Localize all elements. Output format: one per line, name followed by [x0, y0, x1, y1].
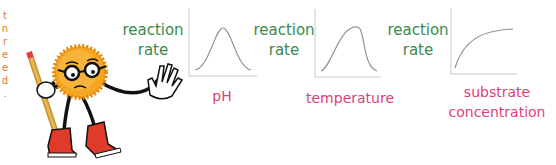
- xlabel-line: temperature: [300, 88, 400, 108]
- chart1-plot: [189, 8, 259, 78]
- chart2-xlabel: temperature: [300, 88, 400, 108]
- saturation-curve: [455, 29, 513, 68]
- chart2-plot: [315, 9, 385, 79]
- ylabel-line: reaction: [387, 20, 449, 40]
- glove-left-icon: [37, 82, 55, 98]
- ylabel-line: rate: [253, 40, 315, 60]
- xlabel-line: pH: [194, 86, 250, 106]
- ylabel-line: rate: [387, 40, 449, 60]
- chart3-ylabel: reaction rate: [387, 20, 449, 60]
- ylabel-line: reaction: [253, 20, 315, 40]
- xlabel-line: substrate: [438, 82, 556, 102]
- chart3-xlabel: substrate concentration: [438, 82, 556, 122]
- skewed-peak-curve: [321, 27, 377, 71]
- chart1-ylabel: reaction rate: [120, 20, 186, 60]
- ylabel-line: reaction: [120, 20, 186, 40]
- glove-right-raised-icon: [148, 64, 182, 99]
- chart2-ylabel: reaction rate: [253, 20, 315, 60]
- chart1-xlabel: pH: [194, 86, 250, 106]
- ylabel-line: rate: [120, 40, 186, 60]
- bell-curve: [195, 28, 251, 70]
- xlabel-line: concentration: [438, 102, 556, 122]
- red-boots-icon: [48, 122, 121, 158]
- chart3-plot: [451, 8, 521, 78]
